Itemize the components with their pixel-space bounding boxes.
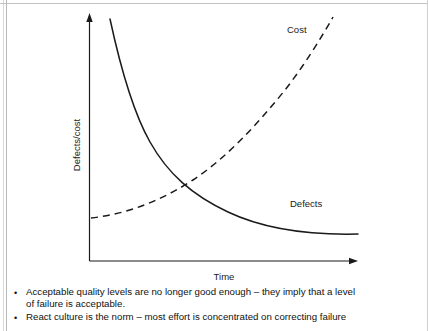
list-item: • React culture is the norm – most effor… [14,311,418,324]
y-axis [86,13,92,261]
bullet-list: • Acceptable quality levels are no longe… [14,286,418,326]
bullet-marker-icon: • [14,311,26,324]
defects-cost-chart: Defects/cost Time Cost Defects [0,0,428,285]
x-axis [90,258,359,264]
y-axis-label: Defects/cost [71,119,82,172]
bullet-text: React culture is the norm – most effort … [26,311,418,323]
bullet-line-1: React culture is the norm – most effort … [26,311,346,322]
figure-page: Defects/cost Time Cost Defects • Accepta… [0,0,428,331]
defects-series-label: Defects [290,198,322,209]
cost-series-label: Cost [287,24,307,35]
bullet-line-1: Acceptable quality levels are no longer … [26,286,355,297]
bullet-text: Acceptable quality levels are no longer … [26,286,418,309]
cost-curve [91,17,333,218]
x-axis-label: Time [214,271,235,282]
bullet-line-2: of failure is acceptable. [26,298,418,310]
bullet-marker-icon: • [14,286,26,299]
list-item: • Acceptable quality levels are no longe… [14,286,418,309]
